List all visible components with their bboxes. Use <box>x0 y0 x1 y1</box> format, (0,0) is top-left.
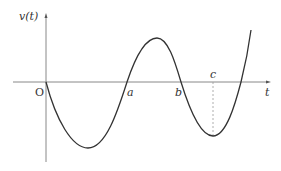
y-axis-arrow-icon <box>45 13 48 18</box>
velocity-graph: v(t) O a b c t <box>0 0 281 171</box>
origin-label: O <box>35 86 44 99</box>
y-axis-label: v(t) <box>19 10 38 23</box>
x-axis-label: t <box>265 86 270 99</box>
x-axis-arrow-icon <box>266 81 271 84</box>
point-b-label: b <box>175 86 182 99</box>
velocity-curve <box>46 30 251 148</box>
point-a-label: a <box>127 86 134 99</box>
point-c-label: c <box>210 68 216 81</box>
